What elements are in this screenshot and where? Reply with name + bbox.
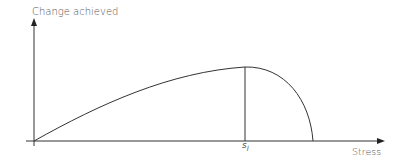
diagram-canvas — [0, 0, 402, 161]
x-axis-label: Stress — [352, 146, 381, 157]
peak-marker-label: sl — [242, 140, 249, 153]
y-axis-label: Change achieved — [32, 6, 118, 17]
stress-curve — [34, 67, 313, 141]
marker-sub: l — [247, 145, 249, 153]
x-axis-arrow-icon — [377, 138, 385, 144]
y-axis-arrow-icon — [31, 18, 37, 26]
